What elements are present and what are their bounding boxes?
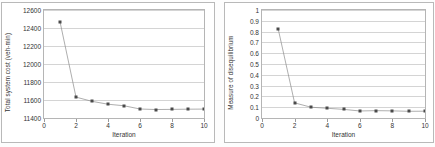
chart-panel-total-system-cost: Total system cost (veh-min) 114001160011…: [1, 2, 215, 143]
y-tick-label: 1: [255, 7, 259, 14]
y-tick-label: 0.5: [250, 61, 259, 68]
series-line: [44, 10, 204, 118]
y-tick-label: 0.4: [250, 71, 259, 78]
data-point-marker: [277, 28, 280, 31]
x-tick-label: 4: [325, 122, 329, 129]
y-tick-label: 12000: [23, 61, 41, 68]
data-point-marker: [139, 108, 142, 111]
x-axis-tick: [295, 119, 296, 122]
y-tick-label: 0.1: [250, 104, 259, 111]
y-tick-label: 0.9: [250, 17, 259, 24]
x-tick-label: 8: [391, 122, 395, 129]
data-point-marker: [391, 109, 394, 112]
x-axis-tick: [172, 119, 173, 122]
x-tick-label: 2: [293, 122, 297, 129]
x-axis-tick: [425, 119, 426, 122]
plot-area: [261, 9, 426, 119]
x-tick-label: 4: [106, 122, 110, 129]
x-axis-tick: [44, 119, 45, 122]
data-point-marker: [171, 108, 174, 111]
data-point-marker: [326, 107, 329, 110]
data-point-marker: [309, 106, 312, 109]
x-tick-label: 10: [421, 122, 428, 129]
x-axis-tick: [327, 119, 328, 122]
y-tick-label: 11800: [23, 79, 41, 86]
y-tick-label: 0.7: [250, 39, 259, 46]
data-point-marker: [75, 96, 78, 99]
x-axis-tick: [204, 119, 205, 122]
y-tick-label: 12600: [23, 7, 41, 14]
data-point-marker: [407, 110, 410, 113]
x-tick-label: 0: [260, 122, 264, 129]
x-axis-tick: [140, 119, 141, 122]
x-tick-label: 10: [200, 122, 207, 129]
data-point-marker: [59, 20, 62, 23]
data-point-marker: [187, 108, 190, 111]
series-line: [262, 10, 425, 118]
x-tick-label: 6: [358, 122, 362, 129]
x-axis-tick: [360, 119, 361, 122]
data-point-marker: [293, 101, 296, 104]
data-point-marker: [107, 103, 110, 106]
x-axis-title: Iteration: [261, 131, 426, 138]
data-point-marker: [91, 100, 94, 103]
plot-area: [43, 9, 205, 119]
y-tick-label: 12400: [23, 25, 41, 32]
y-tick-label: 0: [255, 115, 259, 122]
y-tick-label: 0.3: [250, 82, 259, 89]
x-tick-label: 6: [138, 122, 142, 129]
y-axis-tick-labels: 00.10.20.30.40.50.60.70.80.91: [229, 10, 259, 118]
data-point-marker: [358, 109, 361, 112]
figure-two-convergence-charts: Total system cost (veh-min) 114001160011…: [0, 0, 435, 147]
y-tick-label: 0.2: [250, 93, 259, 100]
x-tick-label: 8: [170, 122, 174, 129]
data-point-marker: [424, 110, 427, 113]
y-tick-label: 11600: [23, 97, 41, 104]
y-tick-label: 0.6: [250, 50, 259, 57]
x-axis-tick: [262, 119, 263, 122]
y-tick-label: 12200: [23, 43, 41, 50]
x-axis-tick: [392, 119, 393, 122]
line-chart-measure-of-disequilibrium: Measure of disequilibrium 00.10.20.30.40…: [225, 3, 433, 142]
data-point-marker: [155, 108, 158, 111]
x-axis-title: Iteration: [43, 131, 205, 138]
data-point-marker: [203, 108, 206, 111]
line-chart-total-system-cost: Total system cost (veh-min) 114001160011…: [2, 3, 214, 142]
x-tick-label: 0: [42, 122, 46, 129]
y-tick-label: 11400: [23, 115, 41, 122]
x-axis-tick: [108, 119, 109, 122]
y-tick-label: 0.8: [250, 28, 259, 35]
x-axis-tick: [76, 119, 77, 122]
y-axis-tick-labels: 11400116001180012000122001240012600: [11, 10, 41, 118]
data-point-marker: [375, 109, 378, 112]
data-point-marker: [342, 108, 345, 111]
x-tick-label: 2: [74, 122, 78, 129]
data-point-marker: [123, 104, 126, 107]
chart-panel-measure-of-disequilibrium: Measure of disequilibrium 00.10.20.30.40…: [224, 2, 434, 143]
